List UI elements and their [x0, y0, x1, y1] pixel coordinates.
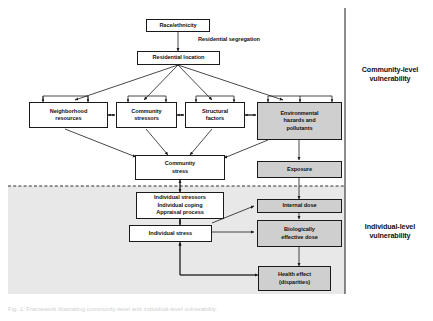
node-structural-factors-line2: factors: [206, 115, 224, 122]
node-community-stress[interactable]: Community stress: [135, 155, 225, 180]
annotation-residential-segregation: Residential segregation: [198, 36, 260, 42]
figure-caption: Fig. 1. Framework illustrating community…: [8, 306, 428, 320]
node-community-stressors-line1: Community: [131, 108, 161, 115]
node-neighborhood-resources-line1: Neighborhood: [50, 108, 88, 115]
node-community-stress-line2: stress: [172, 168, 188, 175]
node-race-ethnicity[interactable]: Race/ethnicity: [146, 19, 210, 32]
node-biologically-effective-dose[interactable]: Biologically effective dose: [257, 220, 342, 247]
node-biologically-effective-dose-line2: effective dose: [281, 234, 318, 241]
node-community-stressors[interactable]: Community stressors: [116, 102, 177, 128]
node-internal-dose[interactable]: Internal dose: [257, 199, 342, 213]
node-community-stress-line1: Community: [165, 160, 195, 167]
side-label-individual-level-vulnerability: Individual-level vulnerability: [350, 222, 430, 241]
node-environmental-hazards-line3: pollutants: [286, 125, 312, 132]
figure-canvas: Race/ethnicity Residential location Resi…: [0, 0, 433, 321]
node-structural-factors-line1: Structural: [202, 108, 228, 115]
node-residential-location[interactable]: Residential location: [137, 51, 220, 65]
node-residential-location-label: Residential location: [153, 54, 205, 61]
node-individual-stress-label: Individual stress: [149, 230, 192, 237]
side-label-community-level-vulnerability: Community-level vulnerability: [350, 65, 430, 84]
side-label-individual-level-line1: Individual-level: [365, 222, 415, 231]
side-label-community-level-line2: vulnerability: [369, 74, 410, 83]
node-environmental-hazards-line1: Environmental: [280, 110, 318, 117]
node-race-ethnicity-label: Race/ethnicity: [159, 22, 196, 29]
node-exposure-label: Exposure: [287, 166, 312, 173]
node-individual-stress[interactable]: Individual stress: [129, 225, 212, 242]
node-individual-stressors-line1: Individual stressors: [154, 194, 206, 201]
node-neighborhood-resources-line2: resources: [55, 115, 81, 122]
node-individual-stressors-coping-appraisal[interactable]: Individual stressors Individual coping A…: [136, 192, 224, 219]
node-environmental-hazards-line2: hazards and: [283, 117, 315, 124]
node-neighborhood-resources[interactable]: Neighborhood resources: [29, 102, 108, 128]
node-community-stressors-line2: stressors: [134, 115, 159, 122]
node-individual-stressors-line3: Appraisal process: [156, 209, 204, 216]
node-structural-factors[interactable]: Structural factors: [185, 102, 245, 128]
node-health-effect-line1: Health effect: [278, 271, 311, 278]
node-environmental-hazards-and-pollutants[interactable]: Environmental hazards and pollutants: [257, 102, 342, 140]
node-internal-dose-label: Internal dose: [282, 202, 316, 209]
node-biologically-effective-dose-line1: Biologically: [284, 226, 315, 233]
node-health-effect-disparities[interactable]: Health effect (disparities): [258, 266, 331, 291]
node-individual-stressors-line2: Individual coping: [157, 202, 202, 209]
node-health-effect-line2: (disparities): [279, 279, 310, 286]
node-exposure[interactable]: Exposure: [257, 161, 342, 178]
side-label-community-level-line1: Community-level: [362, 65, 418, 74]
side-label-individual-level-line2: vulnerability: [369, 231, 410, 240]
